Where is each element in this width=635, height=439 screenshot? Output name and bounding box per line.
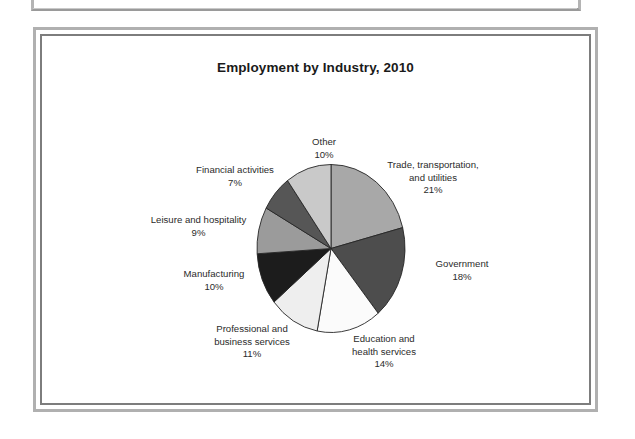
slice-label-government-name: Government bbox=[397, 258, 527, 271]
document-page: Employment by Industry, 2010 Other 10% T… bbox=[0, 0, 635, 439]
chart-figure-frame: Employment by Industry, 2010 Other 10% T… bbox=[33, 27, 598, 412]
slice-label-other: Other 10% bbox=[284, 136, 364, 161]
slice-label-government-value: 18% bbox=[397, 271, 527, 284]
upper-figure-frame-edge bbox=[31, 0, 581, 11]
slice-label-government: Government 18% bbox=[397, 258, 527, 283]
slice-label-other-value: 10% bbox=[284, 149, 364, 162]
slice-label-education-name-line2: health services bbox=[319, 346, 449, 359]
slice-label-professional-value: 11% bbox=[187, 348, 317, 361]
chart-figure-frame-inner: Employment by Industry, 2010 Other 10% T… bbox=[40, 34, 591, 405]
slice-label-trade: Trade, transportation, and utilities 21% bbox=[363, 159, 503, 197]
slice-label-professional: Professional and business services 11% bbox=[187, 323, 317, 361]
slice-label-financial: Financial activities 7% bbox=[170, 164, 300, 189]
slice-label-trade-name-line2: and utilities bbox=[363, 172, 503, 185]
slice-label-education-name: Education and bbox=[319, 333, 449, 346]
slice-label-education: Education and health services 14% bbox=[319, 333, 449, 371]
slice-label-professional-name: Professional and bbox=[187, 323, 317, 336]
slice-label-financial-name: Financial activities bbox=[170, 164, 300, 177]
slice-label-leisure-name: Leisure and hospitality bbox=[121, 214, 276, 227]
slice-label-manufacturing-value: 10% bbox=[154, 281, 274, 294]
slice-label-trade-value: 21% bbox=[363, 184, 503, 197]
slice-label-manufacturing: Manufacturing 10% bbox=[154, 268, 274, 293]
slice-label-trade-name: Trade, transportation, bbox=[363, 159, 503, 172]
slice-label-financial-value: 7% bbox=[170, 177, 300, 190]
slice-label-leisure-value: 9% bbox=[121, 227, 276, 240]
slice-label-education-value: 14% bbox=[319, 358, 449, 371]
chart-plot-area: Employment by Industry, 2010 Other 10% T… bbox=[42, 36, 589, 403]
slice-label-leisure: Leisure and hospitality 9% bbox=[121, 214, 276, 239]
slice-label-manufacturing-name: Manufacturing bbox=[154, 268, 274, 281]
chart-title: Employment by Industry, 2010 bbox=[42, 60, 589, 75]
slice-label-professional-name-line2: business services bbox=[187, 336, 317, 349]
slice-label-other-name: Other bbox=[284, 136, 364, 149]
